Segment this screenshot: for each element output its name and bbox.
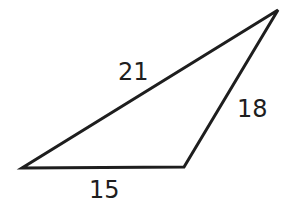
side-label-21: 21: [118, 58, 149, 86]
triangle-diagram: 21 18 15: [0, 0, 294, 205]
side-label-15: 15: [89, 176, 120, 204]
triangle-shape: [22, 10, 278, 168]
side-label-18: 18: [237, 95, 268, 123]
